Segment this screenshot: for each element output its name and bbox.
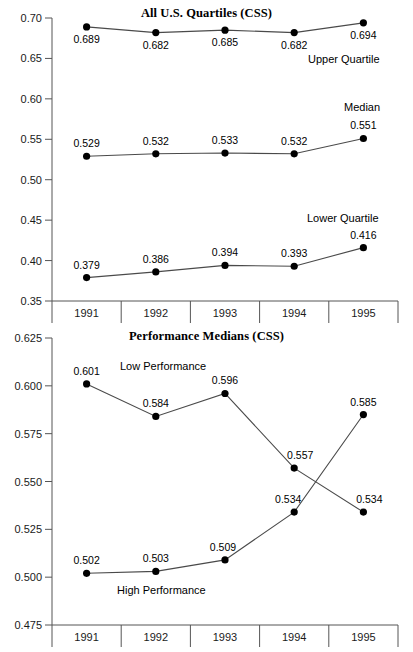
data-point-marker [360,509,367,516]
data-point-marker [221,556,228,563]
data-point-marker [83,380,90,387]
chart-performance-medians: Performance Medians (CSS) 0.6250.6000.57… [0,326,413,652]
y-tick-label: 0.550 [14,476,42,488]
data-value-label: 0.379 [73,259,99,271]
x-tick-label: 1994 [282,631,306,643]
data-value-label: 0.529 [73,137,99,149]
data-value-label: 0.394 [212,246,238,258]
y-tick-label: 0.575 [14,428,42,440]
data-point-marker [152,29,159,36]
data-point-marker [221,262,228,269]
y-tick-label: 0.55 [21,133,42,145]
y-tick-label: 0.70 [21,12,42,24]
y-tick-label: 0.625 [14,332,42,344]
data-point-marker [83,23,90,30]
data-point-marker [152,150,159,157]
data-point-marker [291,465,298,472]
y-tick-label: 0.475 [14,619,42,631]
x-tick-label: 1991 [74,631,98,643]
data-point-marker [360,411,367,418]
data-point-marker [291,150,298,157]
x-tick-label: 1991 [74,307,98,319]
x-tick-label: 1994 [282,307,306,319]
data-value-label: 0.585 [350,396,376,408]
series-annotation-lower-quartile: Lower Quartile [307,212,379,224]
data-point-marker [291,509,298,516]
data-point-marker [291,263,298,270]
data-point-marker [152,413,159,420]
series-annotation-upper-quartile: Upper Quartile [308,53,380,65]
y-tick-label: 0.40 [21,255,42,267]
y-tick-label: 0.45 [21,214,42,226]
chart-all-us-quartiles: All U.S. Quartiles (CSS) 0.700.650.600.5… [0,0,413,326]
data-value-label: 0.534 [356,493,382,505]
data-value-label: 0.532 [281,135,307,147]
data-value-label: 0.416 [350,229,376,241]
data-value-label: 0.601 [73,365,99,377]
y-tick-label: 0.35 [21,295,42,307]
data-value-label: 0.689 [73,33,99,45]
data-value-label: 0.551 [350,119,376,131]
data-value-label: 0.533 [212,134,238,146]
y-tick-label: 0.65 [21,52,42,64]
series-annotation-median: Median [344,101,380,113]
data-point-marker [360,244,367,251]
y-tick-label: 0.600 [14,380,42,392]
data-value-label: 0.532 [143,135,169,147]
quartiles-plot-area: 0.700.650.600.550.500.450.400.3519911992… [0,0,413,326]
x-tick-label: 1995 [351,307,375,319]
y-tick-label: 0.60 [21,93,42,105]
data-value-label: 0.502 [73,554,99,566]
data-value-label: 0.509 [210,541,236,553]
x-tick-label: 1992 [144,307,168,319]
data-value-label: 0.682 [143,39,169,51]
data-point-marker [221,149,228,156]
data-value-label: 0.682 [281,39,307,51]
y-tick-label: 0.500 [14,571,42,583]
series-annotation-low-performance: Low Performance [120,360,206,372]
data-value-label: 0.393 [281,247,307,259]
y-tick-label: 0.525 [14,523,42,535]
data-value-label: 0.503 [143,552,169,564]
data-value-label: 0.694 [350,29,376,41]
data-point-marker [291,29,298,36]
x-tick-label: 1993 [213,631,237,643]
data-value-label: 0.534 [275,493,301,505]
series-annotation-high-performance: High Performance [117,584,206,596]
data-point-marker [83,570,90,577]
series-line [87,384,364,512]
x-tick-label: 1992 [144,631,168,643]
performance-plot-area: 0.6250.6000.5750.5500.5250.5000.47519911… [0,326,413,652]
x-tick-label: 1995 [351,631,375,643]
data-value-label: 0.596 [212,374,238,386]
data-value-label: 0.557 [287,449,313,461]
data-point-marker [152,268,159,275]
x-tick-label: 1993 [213,307,237,319]
data-value-label: 0.584 [143,397,169,409]
data-point-marker [83,274,90,281]
data-value-label: 0.386 [143,253,169,265]
y-tick-label: 0.50 [21,174,42,186]
data-point-marker [221,27,228,34]
data-point-marker [152,568,159,575]
data-value-label: 0.685 [212,36,238,48]
data-point-marker [221,390,228,397]
data-point-marker [83,153,90,160]
data-point-marker [360,19,367,26]
data-point-marker [360,135,367,142]
